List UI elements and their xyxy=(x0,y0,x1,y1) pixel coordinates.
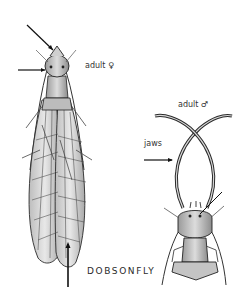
label-adult-male: adult ♂ xyxy=(178,101,208,109)
male-dobsonfly xyxy=(155,116,232,286)
female-palp-right xyxy=(66,50,76,62)
male-jaw-left xyxy=(176,116,232,209)
female-wing-right xyxy=(55,100,85,267)
arrow-to-mandible xyxy=(27,25,53,50)
female-mandibles xyxy=(50,46,64,56)
female-eye-right xyxy=(62,66,65,69)
male-jaw-right xyxy=(155,116,214,209)
figure-title: DOBSONFLY xyxy=(87,267,155,276)
female-pronotum xyxy=(46,76,68,98)
label-adult-female: adult ♀ xyxy=(85,62,114,70)
male-mesothorax xyxy=(172,262,218,280)
female-eye-left xyxy=(50,66,53,69)
male-head-tubercles xyxy=(190,201,201,208)
label-jaws: jaws xyxy=(144,140,162,148)
male-eye-left xyxy=(189,215,192,218)
female-dobsonfly xyxy=(22,46,92,267)
female-palp-left xyxy=(36,50,48,62)
female-mesothorax xyxy=(42,98,72,110)
illustration-canvas xyxy=(0,0,252,305)
male-pronotum xyxy=(182,238,208,262)
female-head xyxy=(45,55,69,77)
male-eye-right xyxy=(199,215,202,218)
male-head xyxy=(178,211,212,239)
dobsonfly-illustration: adult ♀ adult ♂ jaws DOBSONFLY xyxy=(0,0,252,305)
